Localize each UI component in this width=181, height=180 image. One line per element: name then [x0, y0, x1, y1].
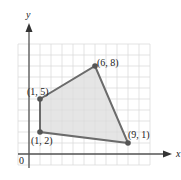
vertex-point	[37, 129, 43, 135]
vertex-point	[37, 96, 43, 102]
coordinate-plane: x y 0 (1, 5) (6, 8) (1, 2) (9, 1)	[0, 0, 181, 180]
y-axis-arrow-icon	[26, 23, 33, 32]
vertex-label-1-2: (1, 2)	[31, 135, 53, 147]
feasible-region-polygon	[40, 66, 128, 143]
vertex-point	[125, 140, 131, 146]
vertex-label-1-5: (1, 5)	[27, 86, 49, 98]
x-axis-arrow-icon	[163, 151, 172, 158]
vertex-label-6-8: (6, 8)	[97, 57, 119, 69]
y-axis-label: y	[25, 9, 31, 20]
vertex-label-9-1: (9, 1)	[128, 129, 150, 141]
origin-label: 0	[19, 155, 24, 166]
x-axis-label: x	[175, 148, 181, 159]
